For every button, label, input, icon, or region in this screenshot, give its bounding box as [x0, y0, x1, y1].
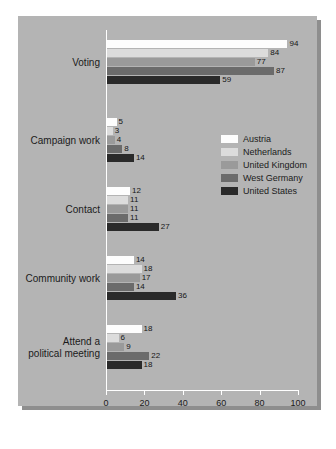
bar-value-label: 11	[128, 213, 138, 222]
bar-row: 5	[107, 118, 299, 126]
bar-group-attend-a-political-meeting: Attend apolitical meeting18692218	[107, 325, 299, 370]
bar-row: 36	[107, 292, 299, 300]
bar-value-label: 36	[176, 291, 187, 300]
bar-value-label: 6	[119, 333, 125, 342]
bar-west-germany	[107, 67, 274, 75]
bar-west-germany	[107, 214, 128, 222]
x-tick-mark-1	[144, 390, 145, 395]
bar-row: 9	[107, 343, 299, 351]
category-label-line: Contact	[66, 204, 100, 216]
x-tick-label-0: 0	[103, 398, 108, 408]
bar-row: 59	[107, 76, 299, 84]
bar-value-label: 18	[142, 360, 153, 369]
bar-austria	[107, 325, 142, 333]
bar-value-label: 8	[122, 144, 128, 153]
category-label-3: Community work	[26, 273, 100, 285]
bar-netherlands	[107, 196, 128, 204]
legend-swatch-icon	[221, 174, 238, 182]
x-tick-label-5: 100	[290, 398, 305, 408]
bar-value-label: 9	[124, 342, 130, 351]
x-tick-mark-4	[260, 390, 261, 395]
x-tick-label-1: 20	[139, 398, 149, 408]
bar-row: 84	[107, 49, 299, 57]
x-tick-label-2: 40	[178, 398, 188, 408]
bar-value-label: 87	[274, 66, 285, 75]
x-tick-label-4: 80	[255, 398, 265, 408]
bar-row: 18	[107, 265, 299, 273]
bar-austria	[107, 256, 134, 264]
bar-row: 18	[107, 361, 299, 369]
bar-row: 18	[107, 325, 299, 333]
bar-united-kingdom	[107, 205, 128, 213]
category-label-2: Contact	[66, 204, 100, 216]
legend-swatch-icon	[221, 187, 238, 195]
bar-west-germany	[107, 352, 149, 360]
legend-label: Netherlands	[243, 147, 292, 157]
legend-swatch-icon	[221, 148, 238, 156]
bar-value-label: 14	[134, 153, 145, 162]
chart-panel: 020406080100 Voting9484778759Campaign wo…	[18, 16, 317, 406]
bar-austria	[107, 187, 130, 195]
bar-row: 27	[107, 223, 299, 231]
category-label-0: Voting	[72, 57, 100, 69]
bar-netherlands	[107, 49, 268, 57]
legend-item-austria: Austria	[221, 132, 333, 145]
bar-austria	[107, 118, 117, 126]
bar-value-label: 4	[115, 135, 121, 144]
bar-row: 17	[107, 274, 299, 282]
x-tick-mark-2	[183, 390, 184, 395]
legend-item-west-germany: West Germany	[221, 171, 333, 184]
bar-united-states	[107, 292, 176, 300]
chart-page: 020406080100 Voting9484778759Campaign wo…	[0, 0, 336, 449]
x-axis-line	[106, 390, 298, 391]
legend-item-united-kingdom: United Kingdom	[221, 158, 333, 171]
bar-united-kingdom	[107, 136, 115, 144]
bar-row: 11	[107, 196, 299, 204]
category-label-4: Attend apolitical meeting	[28, 336, 100, 360]
category-label-1: Campaign work	[31, 135, 100, 147]
legend-label: Austria	[243, 134, 271, 144]
bar-value-label: 14	[134, 282, 145, 291]
bar-value-label: 3	[113, 126, 119, 135]
legend-item-united-states: United States	[221, 184, 333, 197]
bar-row: 14	[107, 283, 299, 291]
bar-value-label: 18	[142, 324, 153, 333]
x-tick-label-3: 60	[216, 398, 226, 408]
bar-united-states	[107, 76, 220, 84]
category-label-line: Attend a	[28, 336, 100, 348]
bar-row: 6	[107, 334, 299, 342]
category-label-line: Community work	[26, 273, 100, 285]
legend-label: United Kingdom	[243, 160, 307, 170]
x-tick-mark-5	[298, 390, 299, 395]
category-label-line: Campaign work	[31, 135, 100, 147]
bar-row: 11	[107, 205, 299, 213]
bar-austria	[107, 40, 287, 48]
bar-group-community-work: Community work1418171436	[107, 256, 299, 301]
bar-united-states	[107, 223, 159, 231]
bar-value-label: 18	[142, 264, 153, 273]
legend-label: West Germany	[243, 173, 303, 183]
chart-legend: AustriaNetherlandsUnited KingdomWest Ger…	[221, 132, 333, 197]
bar-row: 22	[107, 352, 299, 360]
category-label-line: Voting	[72, 57, 100, 69]
bar-united-states	[107, 361, 142, 369]
legend-label: United States	[243, 186, 297, 196]
legend-swatch-icon	[221, 135, 238, 143]
bar-group-voting: Voting9484778759	[107, 40, 299, 85]
bar-value-label: 84	[268, 48, 279, 57]
bar-value-label: 14	[134, 255, 145, 264]
bar-value-label: 22	[149, 351, 160, 360]
bar-row: 14	[107, 256, 299, 264]
x-tick-mark-0	[106, 390, 107, 395]
bar-row: 11	[107, 214, 299, 222]
bar-netherlands	[107, 334, 119, 342]
bar-united-states	[107, 154, 134, 162]
bar-united-kingdom	[107, 274, 140, 282]
bar-value-label: 77	[255, 57, 266, 66]
bar-west-germany	[107, 283, 134, 291]
bar-value-label: 94	[287, 39, 298, 48]
legend-swatch-icon	[221, 161, 238, 169]
bar-value-label: 12	[130, 186, 141, 195]
bar-west-germany	[107, 145, 122, 153]
bar-netherlands	[107, 265, 142, 273]
